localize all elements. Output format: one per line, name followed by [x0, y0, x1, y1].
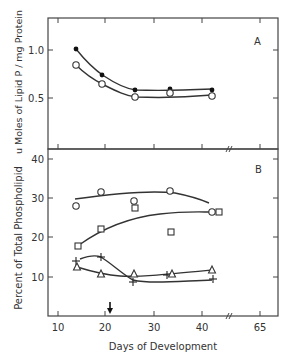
x-axis-label: Days of Development [109, 341, 217, 352]
figure: 1.0 0.5 40 30 20 10 10 20 30 40 65 Days … [0, 0, 290, 360]
panel-b-ytick-30: 30 [31, 193, 44, 204]
panel-b-y-axis-label: Percent of Total Phospholipid [13, 166, 24, 310]
panel-b-ytick-10: 10 [31, 272, 44, 283]
panel-b-ytick-40: 40 [31, 154, 44, 165]
panel-a-ytick-1: 1.0 [28, 45, 44, 56]
panel-a-y-axis-label: u Moles of Lipid P / mg Protein [13, 10, 24, 154]
axis-break-marks [226, 146, 232, 319]
panel-b-triangle-series [74, 263, 216, 277]
panel-b-curves [75, 192, 212, 282]
panel-b-label: B [255, 164, 262, 175]
panel-a-curves [76, 49, 212, 97]
xtick-65: 65 [254, 322, 267, 333]
xtick-30: 30 [148, 322, 161, 333]
tick-marks [48, 18, 278, 316]
panel-a-label: A [254, 36, 261, 47]
panel-b-frame [48, 149, 278, 316]
arrow-down-icon [107, 302, 113, 314]
xtick-20: 20 [99, 322, 112, 333]
panel-a-frame [48, 18, 278, 149]
panel-a-ytick-05: 0.5 [28, 93, 44, 104]
xtick-40: 40 [196, 322, 209, 333]
panel-b-ytick-20: 20 [31, 232, 44, 243]
xtick-10: 10 [52, 322, 65, 333]
